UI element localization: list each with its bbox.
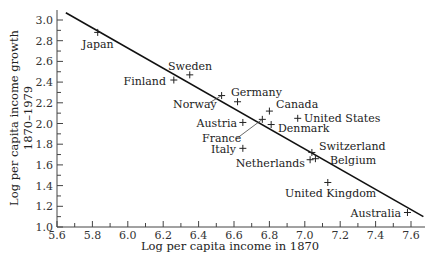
point-label: Norway	[173, 98, 217, 111]
point-label: Belgium	[330, 154, 377, 167]
point-label: Japan	[81, 38, 114, 51]
point-marker	[170, 77, 177, 84]
y-tick-label: 1.2	[36, 200, 54, 213]
y-tick-label: 1.8	[36, 138, 54, 151]
y-axis-title-line1: Log per capita income growth	[7, 29, 21, 205]
point-marker	[239, 145, 246, 152]
point-label: Sweden	[168, 60, 212, 73]
point-label: Netherlands	[236, 157, 306, 170]
y-tick-label: 2.6	[36, 55, 54, 68]
point-label: Finland	[124, 75, 166, 88]
x-tick-label: 6.0	[119, 229, 137, 242]
point-label: Austria	[196, 117, 238, 130]
y-tick-label: 1.4	[36, 180, 54, 193]
y-axis-title-line2: 1870–1979	[21, 86, 35, 150]
point-marker	[239, 119, 246, 126]
point-marker	[266, 108, 273, 115]
point-marker	[307, 156, 314, 163]
y-ticks: 1.01.21.41.61.82.02.22.42.62.83.0	[36, 14, 64, 234]
x-tick-label: 7.4	[367, 229, 385, 242]
y-tick-label: 2.4	[36, 76, 54, 89]
y-tick-label: 1.0	[36, 221, 54, 234]
x-tick-label: 7.2	[331, 229, 349, 242]
x-tick-label: 5.8	[84, 229, 102, 242]
point-marker	[294, 115, 301, 122]
x-axis-title: Log per capita income in 1870	[141, 239, 319, 253]
point-marker	[404, 209, 411, 216]
point-marker	[324, 179, 331, 186]
y-axis-title: Log per capita income growth 1870–1979	[7, 29, 35, 205]
scatter-chart: 5.65.86.06.26.46.66.87.07.27.47.6 1.01.2…	[0, 0, 439, 265]
point-marker	[268, 121, 275, 128]
point-marker	[234, 98, 241, 105]
point-label: Australia	[349, 207, 401, 220]
point-label: Italy	[211, 143, 237, 156]
y-tick-label: 2.2	[36, 97, 54, 110]
y-tick-label: 2.8	[36, 35, 54, 48]
point-label: Switzerland	[319, 140, 386, 153]
point-label: Germany	[231, 86, 283, 99]
y-tick-label: 1.6	[36, 159, 54, 172]
y-tick-label: 3.0	[36, 14, 54, 27]
y-tick-label: 2.0	[36, 118, 54, 131]
point-label: Canada	[276, 98, 319, 111]
x-tick-label: 7.6	[402, 229, 420, 242]
point-labels: JapanFinlandSwedenNorwayGermanyCanadaFra…	[81, 38, 401, 220]
point-label: United States	[304, 112, 381, 125]
point-label: United Kingdom	[285, 187, 377, 200]
